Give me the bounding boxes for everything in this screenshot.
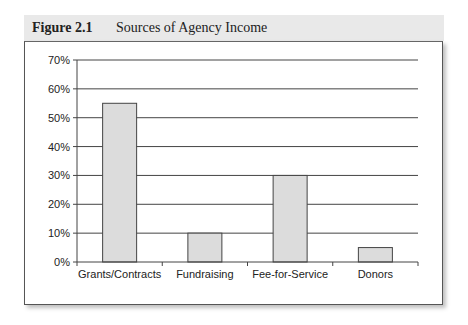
x-category-label: Donors — [358, 268, 394, 280]
bar-donors — [358, 248, 392, 262]
y-tick-label: 20% — [48, 198, 70, 210]
y-tick-label: 30% — [48, 169, 70, 181]
x-category-label: Grants/Contracts — [78, 268, 162, 280]
y-tick-label: 60% — [48, 83, 70, 95]
bar-fee-for-service — [273, 175, 307, 262]
y-tick-label: 0% — [54, 256, 70, 268]
bar-chart: 0%10%20%30%40%50%60%70%Grants/ContractsF… — [0, 0, 468, 325]
bar-grants-contracts — [103, 103, 137, 262]
x-category-label: Fee-for-Service — [252, 268, 328, 280]
y-tick-label: 10% — [48, 227, 70, 239]
y-tick-label: 70% — [48, 54, 70, 66]
bar-fundraising — [188, 233, 222, 262]
y-tick-label: 40% — [48, 141, 70, 153]
x-category-label: Fundraising — [176, 268, 233, 280]
y-tick-label: 50% — [48, 112, 70, 124]
